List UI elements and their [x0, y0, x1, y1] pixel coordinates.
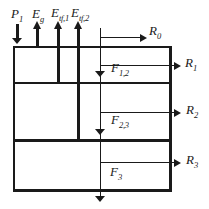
soil-water-balance-diagram: P1 Eg Etf,1 Etf,2 R0 R1 R2 R3 F1,2 F2,3 …: [0, 0, 209, 209]
arrowhead-right-icon: [174, 109, 181, 117]
arrowhead-right-icon: [140, 34, 147, 42]
soil-evaporation-arrow: [36, 29, 39, 47]
precipitation-label: P1: [11, 7, 23, 23]
deep-flow-label: F3: [110, 165, 122, 181]
arrowhead-down-icon: [95, 71, 105, 77]
arrowhead-right-icon: [174, 62, 181, 70]
surface-runoff-label: R0: [149, 24, 161, 40]
runoff-layer1-label: R1: [185, 56, 197, 72]
layer-divider-2-3: [14, 139, 171, 142]
arrowhead-down-icon: [12, 38, 22, 44]
precipitation-arrow: [16, 24, 19, 39]
transpiration-layer2-label: Etf,2: [71, 6, 89, 22]
soil-evaporation-label: Eg: [32, 7, 44, 23]
transpiration-layer2-arrow: [77, 29, 80, 139]
flow-2-3-label: F2,3: [111, 113, 129, 129]
arrowhead-down-icon: [95, 196, 105, 202]
arrowhead-right-icon: [174, 159, 181, 167]
soil-column-box: [13, 46, 172, 192]
arrowhead-down-icon: [95, 129, 105, 135]
surface-runoff-arrow: [100, 37, 140, 38]
runoff-layer3-label: R3: [186, 153, 198, 169]
flow-1-2-label: F1,2: [111, 61, 129, 77]
runoff-layer2-label: R2: [186, 103, 198, 119]
transpiration-layer1-label: Etf,1: [51, 6, 69, 22]
layer-divider-1-2: [14, 82, 171, 84]
transpiration-layer1-arrow: [57, 29, 60, 83]
